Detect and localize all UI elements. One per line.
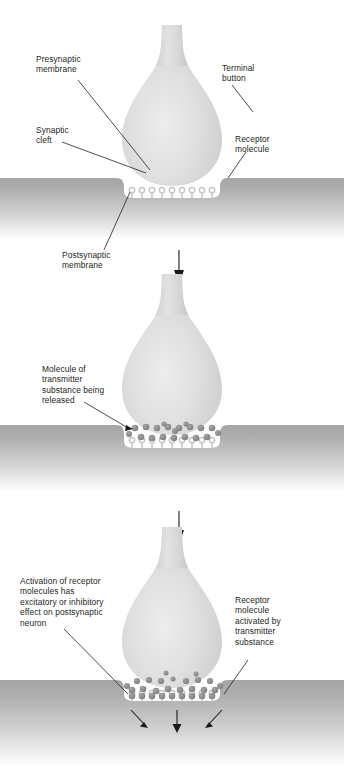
label-postsynaptic-membrane: Postsynaptic membrane xyxy=(62,250,111,271)
label-activation-of-receptor-molecules: Activation of receptor molecules has exc… xyxy=(20,576,103,628)
label-terminal-button: Terminal button xyxy=(222,63,254,84)
label-molecule-of-transmitter-substance: Molecule of transmitter substance being … xyxy=(42,364,104,406)
label-presynaptic-membrane: Presynaptic membrane xyxy=(36,54,81,75)
label-synaptic-cleft: Synaptic cleft xyxy=(36,125,69,146)
receptor-molecule-row xyxy=(129,187,214,198)
label-receptor-molecule-activated: Receptor molecule activated by transmitt… xyxy=(235,595,281,647)
terminal-button xyxy=(122,25,222,186)
terminal-button xyxy=(122,527,222,688)
panel-activation xyxy=(0,527,344,766)
figure-canvas: Presynaptic membrane Synaptic cleft Term… xyxy=(0,0,344,766)
postsynaptic-membrane-band xyxy=(0,425,344,492)
terminal-button xyxy=(122,274,222,435)
label-receptor-molecule: Receptor molecule xyxy=(235,134,270,155)
